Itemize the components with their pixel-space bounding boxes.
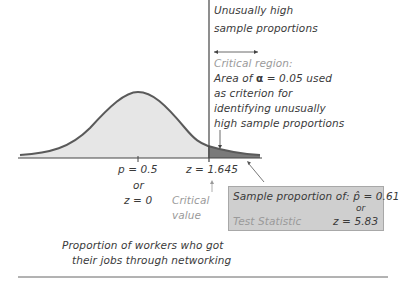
critical-z-label: z = 1.645	[186, 163, 238, 175]
arrow-to-tail-icon	[247, 161, 264, 182]
result-or-label: or	[356, 203, 365, 213]
critical-region-line3: identifying unusually	[214, 102, 326, 114]
critical-value-label-1: Critical	[172, 194, 210, 206]
unusually-high-line2: sample proportions	[214, 22, 318, 34]
critical-region-line2: as criterion for	[214, 87, 293, 99]
test-statistic-value: z = 5.83	[333, 215, 378, 227]
double-arrow-icon	[214, 50, 258, 54]
sample-proportion-value: = 0.61	[360, 190, 400, 202]
test-statistic-label: Test Statistic	[233, 215, 301, 227]
center-p-label: p = 0.5	[118, 163, 158, 175]
x-axis-caption-line2: their jobs through networking	[72, 254, 231, 266]
critical-region-line1-prefix: Area of	[214, 72, 256, 84]
critical-region-heading: Critical region:	[214, 57, 293, 69]
unusually-high-line1: Unusually high	[214, 4, 293, 16]
center-or-label: or	[133, 179, 144, 191]
sample-proportion-label: Sample proportion of:	[233, 190, 353, 202]
critical-region-line4: high sample proportions	[214, 117, 344, 129]
critical-region-line1-suffix: = 0.05 used	[263, 72, 332, 84]
critical-value-label-2: value	[172, 209, 201, 221]
center-z-label: z = 0	[124, 194, 152, 206]
phat-symbol: p̂	[353, 190, 360, 202]
sample-proportion-line: Sample proportion of: p̂ = 0.61	[233, 190, 400, 202]
curve-body-fill	[20, 92, 208, 158]
arrow-down-icon	[218, 130, 222, 149]
critical-region-line1: Area of α = 0.05 used	[214, 72, 332, 84]
arrow-up-icon	[210, 180, 214, 192]
x-axis-caption-line1: Proportion of workers who got	[62, 239, 224, 251]
